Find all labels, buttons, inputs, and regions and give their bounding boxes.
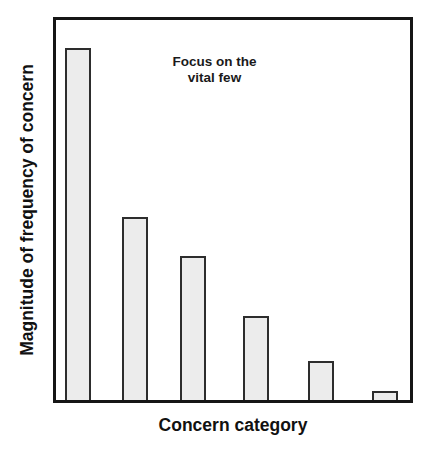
annotation-line-1: Focus on the <box>154 54 275 70</box>
bar-category-3 <box>180 256 206 400</box>
x-axis-label: Concern category <box>53 415 413 436</box>
bar-category-6 <box>372 391 398 400</box>
bar-category-5 <box>308 361 334 400</box>
pareto-chart-figure: Magnitude of frequency of concern Focus … <box>0 0 431 457</box>
vital-few-annotation: Focus on the vital few <box>154 54 275 86</box>
y-axis-label: Magnitude of frequency of concern <box>16 40 38 380</box>
bar-category-2 <box>122 217 148 400</box>
plot-area: Focus on the vital few <box>53 17 413 403</box>
bar-category-1 <box>65 48 91 400</box>
annotation-line-2: vital few <box>154 70 275 86</box>
bar-category-4 <box>243 316 269 400</box>
